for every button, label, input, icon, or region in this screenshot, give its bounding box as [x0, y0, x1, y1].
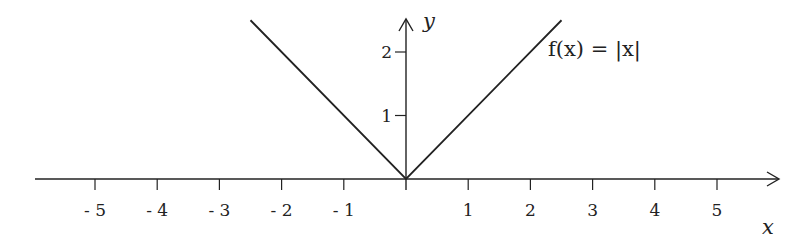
x-tick-label: - 1 [333, 200, 355, 220]
x-axis-label: x [762, 215, 774, 239]
x-tick-label: - 5 [84, 200, 106, 220]
y-axis-label: y [422, 9, 436, 33]
x-tick-label: 2 [525, 200, 536, 220]
x-tick-label: - 4 [146, 200, 168, 220]
x-ticks: - 5- 4- 3- 2- 112345 [84, 179, 722, 220]
y-tick-label: 2 [381, 42, 392, 62]
x-tick-label: 4 [649, 200, 660, 220]
function-label: f(x) = |x| [548, 37, 641, 62]
x-tick-label: 1 [463, 200, 474, 220]
x-tick-label: 5 [712, 200, 723, 220]
absolute-value-plot: x y - 5- 4- 3- 2- 112345 12 f(x) = |x| [0, 0, 812, 242]
y-ticks: 12 [381, 42, 406, 126]
x-tick-label: - 2 [271, 200, 293, 220]
y-tick-label: 1 [381, 106, 392, 126]
x-tick-label: 3 [587, 200, 598, 220]
x-tick-label: - 3 [208, 200, 230, 220]
